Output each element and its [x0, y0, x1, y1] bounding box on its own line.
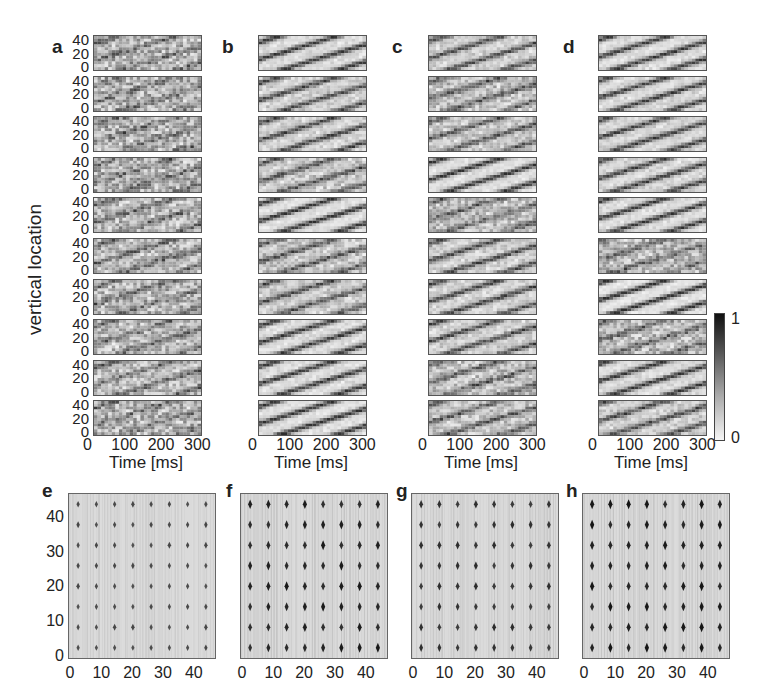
raster-c-10: [428, 400, 537, 436]
xtick-c-100: 100: [446, 437, 473, 453]
raster-a-2: [93, 76, 202, 112]
raster-c-4: [428, 157, 537, 193]
xtick-b-100: 100: [276, 437, 303, 453]
grid-panel-f: [240, 493, 388, 659]
raster-d-1: [598, 35, 707, 71]
xtick-d-300: 300: [689, 437, 716, 453]
grid-panel-g: [411, 493, 559, 659]
xtick-g-30: 30: [497, 665, 515, 681]
xtick-g-10: 10: [435, 665, 453, 681]
raster-c-3: [428, 116, 537, 152]
xtick-f-10: 10: [264, 665, 282, 681]
colorbar: [714, 313, 725, 441]
xtick-e-30: 30: [154, 665, 172, 681]
xtick-h-40: 40: [699, 665, 717, 681]
raster-a-9: [93, 360, 202, 396]
panel-label-f: f: [226, 480, 232, 502]
raster-d-2: [598, 76, 707, 112]
xtick-b-200: 200: [313, 437, 340, 453]
ytick-e-40: 40: [42, 509, 64, 525]
xtick-g-0: 0: [409, 665, 418, 681]
xtick-g-20: 20: [466, 665, 484, 681]
xtick-h-20: 20: [637, 665, 655, 681]
xtick-c-200: 200: [483, 437, 510, 453]
panel-label-c: c: [392, 36, 403, 58]
raster-b-2: [258, 76, 367, 112]
xtick-g-40: 40: [528, 665, 546, 681]
colorbar-min-label: 0: [731, 430, 740, 446]
xtick-b-300: 300: [349, 437, 376, 453]
raster-d-10: [598, 400, 707, 436]
panel-label-e: e: [42, 480, 53, 502]
raster-d-7: [598, 279, 707, 315]
ytick-e-20: 20: [42, 578, 64, 594]
grid-panel-e: [68, 493, 216, 659]
raster-a-10: [93, 400, 202, 436]
raster-b-8: [258, 319, 367, 355]
raster-a-4: [93, 157, 202, 193]
xtick-e-40: 40: [185, 665, 203, 681]
xtick-e-0: 0: [66, 665, 75, 681]
raster-a-1: [93, 35, 202, 71]
xtick-d-100: 100: [616, 437, 643, 453]
panel-label-d: d: [563, 36, 575, 58]
xtick-h-30: 30: [668, 665, 686, 681]
raster-d-4: [598, 157, 707, 193]
raster-a-3: [93, 116, 202, 152]
xtick-e-10: 10: [92, 665, 110, 681]
panel-label-a: a: [52, 36, 63, 58]
raster-c-5: [428, 197, 537, 233]
xtick-b-0: 0: [248, 437, 257, 453]
grid-panel-h: [582, 493, 730, 659]
raster-b-1: [258, 35, 367, 71]
xtick-e-20: 20: [123, 665, 141, 681]
y-axis-label: vertical location: [24, 204, 46, 335]
raster-a-8: [93, 319, 202, 355]
x-axis-label-b: Time [ms]: [274, 453, 348, 473]
xtick-a-300: 300: [184, 437, 211, 453]
raster-b-3: [258, 116, 367, 152]
raster-c-7: [428, 279, 537, 315]
raster-c-2: [428, 76, 537, 112]
raster-c-1: [428, 35, 537, 71]
xtick-f-20: 20: [295, 665, 313, 681]
raster-d-3: [598, 116, 707, 152]
panel-label-b: b: [222, 36, 234, 58]
raster-b-6: [258, 238, 367, 274]
raster-b-4: [258, 157, 367, 193]
xtick-d-200: 200: [653, 437, 680, 453]
xtick-f-40: 40: [357, 665, 375, 681]
xtick-c-300: 300: [519, 437, 546, 453]
raster-b-9: [258, 360, 367, 396]
x-axis-label-a: Time [ms]: [109, 453, 183, 473]
raster-a-5: [93, 197, 202, 233]
colorbar-max-label: 1: [731, 311, 740, 327]
x-axis-label-c: Time [ms]: [444, 453, 518, 473]
raster-c-9: [428, 360, 537, 396]
ytick-e-10: 10: [42, 613, 64, 629]
xtick-d-0: 0: [588, 437, 597, 453]
ytick-e-30: 30: [42, 544, 64, 560]
raster-b-5: [258, 197, 367, 233]
raster-d-5: [598, 197, 707, 233]
xtick-f-30: 30: [326, 665, 344, 681]
ytick-e-0: 0: [42, 648, 64, 664]
raster-c-6: [428, 238, 537, 274]
raster-d-6: [598, 238, 707, 274]
xtick-a-200: 200: [148, 437, 175, 453]
panel-label-g: g: [396, 480, 408, 502]
raster-a-7: [93, 279, 202, 315]
raster-b-10: [258, 400, 367, 436]
xtick-f-0: 0: [238, 665, 247, 681]
raster-c-8: [428, 319, 537, 355]
raster-b-7: [258, 279, 367, 315]
xtick-h-10: 10: [606, 665, 624, 681]
x-axis-label-d: Time [ms]: [614, 453, 688, 473]
xtick-a-100: 100: [111, 437, 138, 453]
xtick-c-0: 0: [418, 437, 427, 453]
raster-d-9: [598, 360, 707, 396]
raster-a-6: [93, 238, 202, 274]
xtick-a-0: 0: [83, 437, 92, 453]
xtick-h-0: 0: [580, 665, 589, 681]
panel-label-h: h: [566, 480, 578, 502]
